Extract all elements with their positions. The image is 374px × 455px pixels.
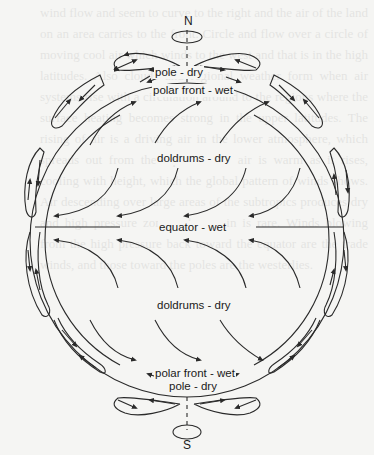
south-rotation-icon: [173, 425, 201, 439]
figure-page: wind flow and seem to curve to the right…: [0, 0, 374, 455]
north-pole-label: pole - dry: [154, 66, 204, 79]
south-doldrums-label: doldrums - dry: [156, 299, 232, 312]
south-polar-front-label: polar front - wet: [154, 367, 236, 380]
north-polar-front-label: polar front - wet: [152, 84, 234, 97]
equator-label: equator - wet: [158, 221, 227, 234]
south-pole-label: pole - dry: [168, 380, 218, 393]
south-label: S: [183, 438, 191, 452]
north-doldrums-label: doldrums - dry: [156, 152, 232, 165]
north-label: N: [184, 14, 193, 28]
